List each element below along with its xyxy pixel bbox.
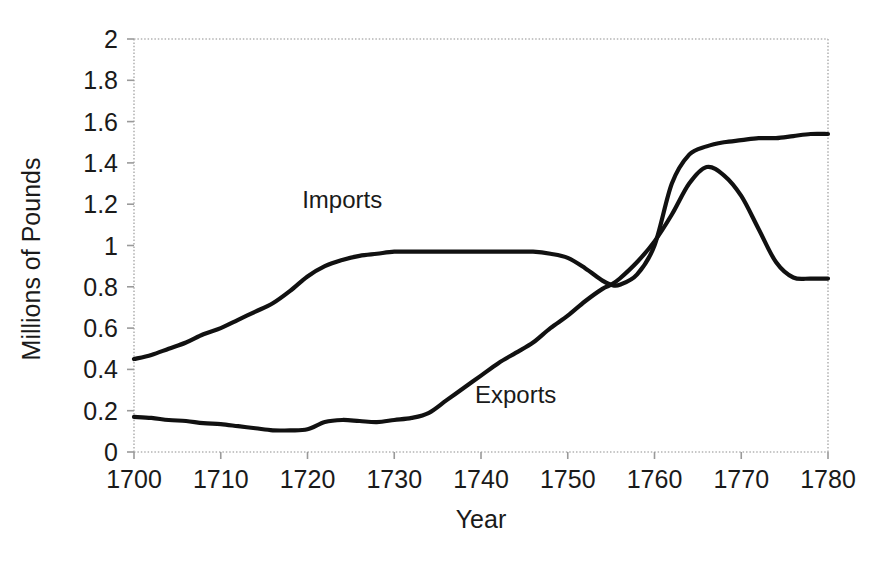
y-tick-label: 2 xyxy=(104,25,118,53)
x-tick-label: 1780 xyxy=(800,465,856,493)
x-axis-title: Year xyxy=(456,505,507,533)
x-axis-tick-labels: 170017101720173017401750176017701780 xyxy=(106,465,856,493)
y-tick-label: 0.8 xyxy=(83,273,118,301)
x-tick-label: 1760 xyxy=(627,465,683,493)
y-tick-label: 1.8 xyxy=(83,66,118,94)
y-tick-label: 1.6 xyxy=(83,108,118,136)
x-tick-label: 1710 xyxy=(193,465,249,493)
y-axis-title: Millions of Pounds xyxy=(17,158,45,361)
series-label-imports: Imports xyxy=(302,186,382,213)
chart-container: 00.20.40.60.811.21.41.61.82 170017101720… xyxy=(0,0,883,567)
series-label-exports: Exports xyxy=(475,381,556,408)
x-tick-label: 1740 xyxy=(453,465,509,493)
x-tick-label: 1700 xyxy=(106,465,162,493)
trade-line-chart: 00.20.40.60.811.21.41.61.82 170017101720… xyxy=(0,0,883,567)
y-tick-label: 0.6 xyxy=(83,314,118,342)
y-tick-label: 0.2 xyxy=(83,397,118,425)
x-tick-label: 1750 xyxy=(540,465,596,493)
y-tick-label: 1.2 xyxy=(83,190,118,218)
y-tick-label: 1.4 xyxy=(83,149,118,177)
x-tick-label: 1770 xyxy=(713,465,769,493)
y-tick-label: 0.4 xyxy=(83,355,118,383)
x-tick-label: 1720 xyxy=(280,465,336,493)
x-tick-label: 1730 xyxy=(366,465,422,493)
y-tick-label: 1 xyxy=(104,232,118,260)
y-tick-label: 0 xyxy=(104,438,118,466)
